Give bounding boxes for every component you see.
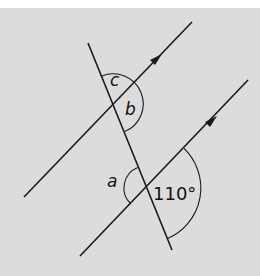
angle-arc-c-b [102, 74, 144, 132]
angle-label-c: c [110, 70, 120, 90]
transversal-line [88, 43, 172, 250]
angle-label-a: a [107, 171, 117, 191]
angle-label-b: b [125, 99, 136, 119]
angle-label-110: 110° [153, 183, 196, 204]
angle-diagram: c b a 110° [0, 0, 260, 276]
